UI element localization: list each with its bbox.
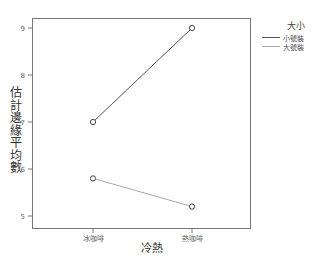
- x-axis-title: 冷熱: [0, 239, 323, 255]
- data-point-marker: [189, 204, 194, 209]
- y-axis-title-char: 邊: [10, 112, 22, 125]
- data-series: [90, 25, 194, 209]
- legend-swatch-small: [262, 37, 280, 38]
- series-line: [93, 28, 192, 122]
- data-point-marker: [189, 25, 194, 30]
- legend-item-large: 大號裝: [262, 42, 323, 51]
- y-axis-title-char: 估: [10, 87, 22, 100]
- y-tick-label: 8: [21, 72, 25, 80]
- legend: 大小 小號裝 大號裝: [262, 19, 323, 51]
- series-line: [93, 178, 192, 206]
- data-point-marker: [90, 176, 95, 181]
- y-tick-label: 5: [21, 213, 25, 221]
- data-point-marker: [90, 119, 95, 124]
- legend-swatch-large: [262, 46, 280, 47]
- legend-title: 大小: [262, 19, 323, 32]
- y-axis-title-char: 平: [10, 137, 22, 150]
- y-tick-label: 9: [21, 25, 25, 33]
- y-axis-title: 估計邊緣平均數: [8, 87, 24, 175]
- plot-frame: [33, 19, 251, 229]
- x-axis-title-text: 冷熱: [141, 239, 163, 255]
- y-axis-title-char: 數: [10, 162, 22, 175]
- legend-label-large: 大號裝: [283, 42, 304, 52]
